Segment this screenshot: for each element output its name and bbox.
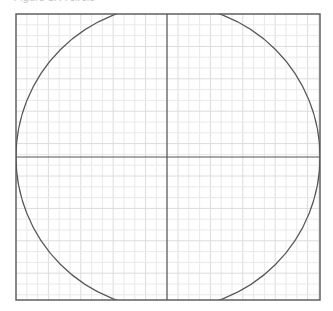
circle-diagram xyxy=(0,0,333,311)
